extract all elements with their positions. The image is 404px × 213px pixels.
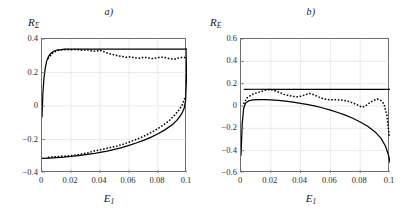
panel-b-y-tick-label: −0.6 <box>222 167 239 177</box>
panel-a-y-tick-label: −0.4 <box>23 167 40 177</box>
panel-a-x-tick-label: 0.02 <box>63 175 78 185</box>
curve-lower-branch-dotted <box>48 96 186 157</box>
panel-a-x-tick-label: 0 <box>39 175 43 185</box>
panel-a-curves <box>42 39 187 173</box>
panel-a-x-tick-label: 0.04 <box>92 175 107 185</box>
figure-root: a) RΣ 0.40.20−0.2−0.4 00.020.040.060.080… <box>0 0 404 213</box>
curve-upper-branch-dotted <box>48 49 187 59</box>
panel-b-title-text: b) <box>307 6 316 17</box>
curve-upper-branch-solid <box>42 49 187 117</box>
panel-b-x-tick-label: 0.06 <box>322 175 337 185</box>
panel-a: a) RΣ 0.40.20−0.2−0.4 00.020.040.060.080… <box>0 0 202 213</box>
curve-lower-branch-solid <box>42 49 187 158</box>
panel-a-title-text: a) <box>105 6 114 17</box>
panel-a-x-axis-label-sub: 1 <box>110 197 114 206</box>
panel-b-x-axis-label: E1 <box>202 192 404 206</box>
panel-a-x-tick-label: 0.1 <box>181 175 192 185</box>
panel-b-y-tick-label: 0.2 <box>226 78 239 88</box>
panel-b-y-ticks: 0.60.40.20−0.2−0.4−0.6 <box>202 0 239 213</box>
panel-b-y-tick-label: 0 <box>233 100 239 110</box>
panel-b-x-axis-label-sub: 1 <box>312 197 316 206</box>
panel-a-x-tick-label: 0.08 <box>150 175 165 185</box>
curve-arc-solid-curve <box>241 100 390 163</box>
panel-b-y-tick-label: −0.2 <box>222 122 239 132</box>
curve-oscillating-dotted-curve <box>243 89 389 136</box>
panel-b-plot-area <box>240 38 389 172</box>
panel-a-x-axis-label: E1 <box>0 192 202 206</box>
panel-a-x-tick-label: 0.06 <box>121 175 136 185</box>
panel-a-y-tick-label: 0.4 <box>27 33 40 43</box>
panel-b-x-tick-label: 0.02 <box>262 175 277 185</box>
panel-b-x-tick-label: 0 <box>238 175 242 185</box>
panel-b-curves <box>241 39 390 173</box>
panel-b-y-tick-label: 0.6 <box>226 33 239 43</box>
panel-a-y-tick-label: 0 <box>34 100 40 110</box>
panel-b-x-tick-label: 0.1 <box>384 175 395 185</box>
panel-b-y-tick-label: 0.4 <box>226 55 239 65</box>
panel-a-plot-area <box>41 38 186 172</box>
panel-b: b) RE 0.60.40.20−0.2−0.4−0.6 00.020.040.… <box>202 0 404 213</box>
panel-a-y-ticks: 0.40.20−0.2−0.4 <box>0 0 40 213</box>
panel-b-y-tick-label: −0.4 <box>222 145 239 155</box>
panel-b-x-tick-label: 0.04 <box>292 175 307 185</box>
panel-b-x-tick-label: 0.08 <box>352 175 367 185</box>
panel-a-y-tick-label: 0.2 <box>27 67 40 77</box>
panel-a-y-tick-label: −0.2 <box>23 134 40 144</box>
